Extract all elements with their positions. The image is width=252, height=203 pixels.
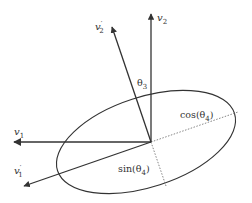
vector-rotation-diagram: v2 v′2 v1 v′1 θ3 cos(θ4) sin(θ4)	[0, 0, 252, 203]
label-theta3: θ3	[137, 77, 147, 91]
label-cos-theta4: cos(θ4)	[180, 109, 214, 123]
label-v1: v1	[14, 126, 24, 140]
label-v1-prime: v′1	[14, 164, 23, 179]
label-v2-prime: v′2	[95, 20, 104, 35]
sin-projection-dotted-line	[151, 142, 166, 186]
label-sin-theta4: sin(θ4)	[118, 163, 150, 177]
label-v2: v2	[157, 12, 167, 26]
